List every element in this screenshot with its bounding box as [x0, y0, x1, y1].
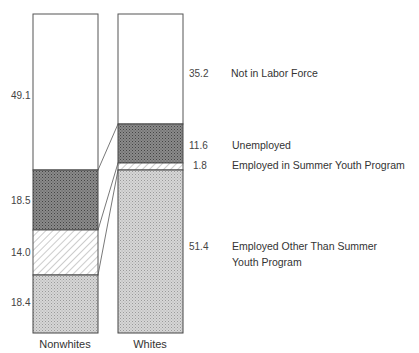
legend-employed-other: Employed Other Than Summer: [232, 240, 378, 252]
bar-whites: [118, 14, 183, 333]
value-label: 18.5: [11, 195, 31, 206]
segment-not-in-labor-force: [33, 14, 98, 170]
segment-employed-other: [118, 170, 183, 333]
value-label: 18.4: [11, 297, 31, 308]
segment-not-in-labor-force: [118, 14, 183, 124]
connector-lines: [98, 124, 118, 275]
legend-not-in-labor-force: Not in Labor Force: [231, 67, 318, 79]
legend-employed-other-line2: Youth Program: [232, 256, 302, 268]
value-label: 1.8: [193, 160, 207, 171]
segment-summer-youth: [33, 230, 98, 275]
segment-unemployed: [33, 170, 98, 230]
value-label: 11.6: [189, 140, 208, 151]
legend-summer-youth: Employed in Summer Youth Program: [232, 159, 405, 171]
value-label: 35.2: [189, 68, 209, 79]
category-label-whites: Whites: [133, 338, 167, 350]
segment-employed-other: [33, 275, 98, 333]
stacked-bar-chart: 49.1 18.5 14.0 18.4 35.2 11.6 1.8 51.4 N…: [0, 0, 419, 353]
legend-unemployed: Unemployed: [232, 139, 291, 151]
value-label: 51.4: [189, 241, 209, 252]
value-label: 14.0: [11, 247, 31, 258]
category-label-nonwhites: Nonwhites: [39, 338, 91, 350]
bar-nonwhites: [33, 14, 98, 333]
segment-unemployed: [118, 124, 183, 163]
segment-summer-youth: [118, 163, 183, 170]
value-label: 49.1: [11, 90, 31, 101]
